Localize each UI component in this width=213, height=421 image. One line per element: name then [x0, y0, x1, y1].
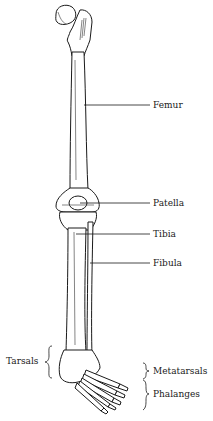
tibia-shaft — [66, 228, 86, 352]
label-metatarsals: Metatarsals — [153, 366, 207, 376]
tarsals-brace — [45, 346, 52, 378]
metatarsals-brace — [143, 363, 149, 379]
label-patella: Patella — [153, 198, 184, 208]
phalanges-brace — [143, 380, 149, 410]
fibula-shaft — [87, 222, 93, 355]
label-tibia: Tibia — [153, 229, 176, 239]
label-fibula: Fibula — [153, 258, 182, 268]
label-femur: Femur — [153, 100, 183, 110]
label-phalanges: Phalanges — [153, 389, 200, 399]
label-tarsals: Tarsals — [6, 356, 38, 366]
femur-shaft — [70, 52, 88, 190]
leg-bone-diagram: Femur Patella Tibia Fibula Tarsals Metat… — [0, 0, 213, 421]
